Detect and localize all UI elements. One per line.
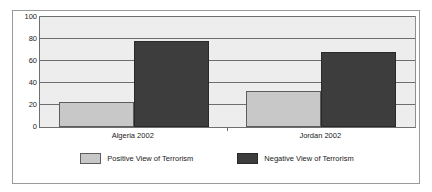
y-axis-tick-labels: 100806040200 (13, 16, 37, 128)
y-axis-tick-label: 80 (13, 35, 37, 43)
bar (59, 102, 134, 127)
plot-area (39, 16, 416, 128)
legend-entry: Positive View of Terrorism (80, 153, 193, 164)
legend-color-swatch (237, 153, 258, 164)
bar (246, 91, 321, 127)
bars-layer (40, 17, 415, 127)
legend-entry: Negative View of Terrorism (237, 153, 353, 164)
y-axis-tick-label: 100 (13, 13, 37, 21)
y-axis-tick-label: 60 (13, 57, 37, 65)
x-axis-tick-mark (227, 127, 228, 131)
x-axis-category-label: Jordan 2002 (227, 131, 415, 141)
y-axis-tick-label: 20 (13, 101, 37, 109)
chart-legend: Positive View of TerrorismNegative View … (13, 147, 421, 169)
bar (134, 41, 209, 127)
bar (321, 52, 396, 127)
legend-label: Negative View of Terrorism (264, 154, 353, 163)
x-axis-category-labels: Algeria 2002Jordan 2002 (39, 131, 416, 143)
y-axis-tick-label: 40 (13, 79, 37, 87)
chart-plot-region: 100806040200 Algeria 2002Jordan 2002 (13, 11, 421, 141)
legend-label: Positive View of Terrorism (107, 154, 193, 163)
y-axis-tick-label: 0 (13, 123, 37, 131)
x-axis-category-label: Algeria 2002 (39, 131, 227, 141)
legend-color-swatch (80, 153, 101, 164)
chart-figure-frame: 100806040200 Algeria 2002Jordan 2002 Pos… (12, 10, 420, 184)
